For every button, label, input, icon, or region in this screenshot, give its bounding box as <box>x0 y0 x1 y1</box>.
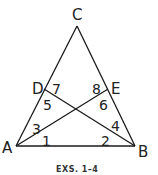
angle-label-7: 7 <box>52 81 61 97</box>
angle-label-5: 5 <box>43 97 52 113</box>
triangle-diagram: C A B D E 1 2 3 4 5 6 7 8 EXS. 1–4 <box>0 0 158 175</box>
vertex-label-d: D <box>32 80 44 98</box>
vertex-label-e: E <box>111 80 120 98</box>
angle-label-6: 6 <box>99 97 108 113</box>
angle-label-8: 8 <box>92 81 101 97</box>
angle-label-1: 1 <box>42 133 51 149</box>
vertex-label-c: C <box>72 6 82 24</box>
vertex-label-a: A <box>2 139 13 157</box>
segment-AC <box>16 26 77 146</box>
figure-caption: EXS. 1–4 <box>56 165 98 174</box>
angle-label-4: 4 <box>111 118 120 134</box>
vertex-label-b: B <box>138 143 148 161</box>
angle-label-2: 2 <box>101 133 110 149</box>
angle-label-3: 3 <box>32 121 41 137</box>
